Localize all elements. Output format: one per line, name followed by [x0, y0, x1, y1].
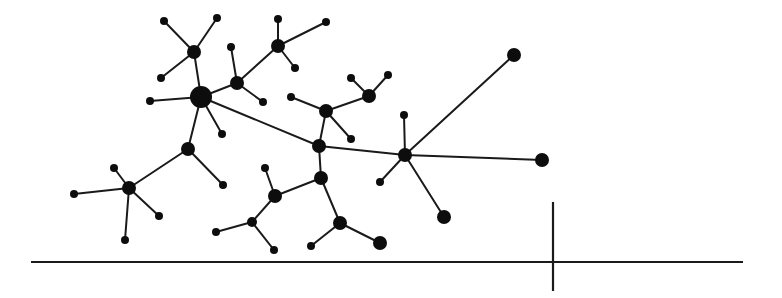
- graph-edge: [125, 188, 129, 240]
- graph-edge: [278, 22, 326, 46]
- graph-hub-node: [333, 216, 347, 230]
- graph-node: [535, 153, 549, 167]
- graph-edge: [252, 222, 274, 250]
- baseline-axes: [31, 202, 743, 291]
- graph-node: [287, 93, 295, 101]
- graph-node: [437, 210, 451, 224]
- graph-edge: [405, 155, 542, 160]
- graph-node: [70, 190, 78, 198]
- graph-node: [376, 178, 384, 186]
- graph-edge: [74, 188, 129, 194]
- graph-node: [400, 111, 408, 119]
- network-graph-svg: [0, 0, 782, 298]
- graph-node: [291, 64, 299, 72]
- graph-node: [218, 130, 226, 138]
- graph-node: [110, 164, 118, 172]
- graph-node: [322, 18, 330, 26]
- graph-node: [213, 14, 221, 22]
- graph-edge: [405, 155, 444, 217]
- graph-hub-node: [181, 142, 195, 156]
- node-layer: [70, 14, 549, 254]
- graph-node: [259, 98, 267, 106]
- graph-edge: [319, 146, 405, 155]
- graph-hub-node: [312, 139, 326, 153]
- graph-edge: [321, 178, 340, 223]
- edge-layer: [74, 18, 542, 250]
- graph-hub-node: [271, 39, 285, 53]
- graph-hub-node: [187, 45, 201, 59]
- graph-node: [160, 17, 168, 25]
- graph-node: [219, 181, 227, 189]
- graph-node: [347, 74, 355, 82]
- graph-edge: [237, 46, 278, 83]
- graph-hub-node: [314, 171, 328, 185]
- graph-node: [347, 135, 355, 143]
- graph-hub-node: [362, 89, 376, 103]
- graph-node: [307, 242, 315, 250]
- graph-node: [384, 71, 392, 79]
- graph-hub-node: [268, 189, 282, 203]
- graph-node: [261, 164, 269, 172]
- graph-node: [121, 236, 129, 244]
- graph-hub-node: [398, 148, 412, 162]
- graph-edge: [216, 222, 252, 232]
- graph-node: [155, 212, 163, 220]
- graph-node: [373, 236, 387, 250]
- graph-hub-node: [230, 76, 244, 90]
- graph-edge: [129, 149, 188, 188]
- graph-edge: [275, 178, 321, 196]
- graph-node: [274, 15, 282, 23]
- graph-edge: [188, 149, 223, 185]
- graph-hub-node: [122, 181, 136, 195]
- graph-hub-node: [319, 104, 333, 118]
- graph-node: [157, 74, 165, 82]
- network-diagram: [0, 0, 782, 298]
- graph-hub-node: [190, 86, 212, 108]
- graph-node: [507, 48, 521, 62]
- graph-node: [247, 217, 257, 227]
- graph-node: [146, 97, 154, 105]
- graph-edge: [405, 55, 514, 155]
- graph-node: [270, 246, 278, 254]
- graph-node: [212, 228, 220, 236]
- graph-node: [227, 43, 235, 51]
